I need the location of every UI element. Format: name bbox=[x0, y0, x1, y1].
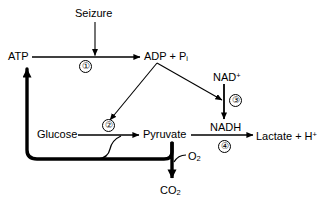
node-label-lactate: Lactate + H+ bbox=[256, 131, 317, 142]
node-label-nadh: NADH bbox=[210, 122, 241, 133]
node-label-nad-plus: NAD+ bbox=[213, 72, 241, 83]
node-label-o2-sub: 2 bbox=[197, 154, 201, 163]
node-label-glucose: Glucose bbox=[37, 129, 77, 140]
node-label-co2-text: CO bbox=[160, 184, 177, 196]
node-label-pyruvate: Pyruvate bbox=[143, 129, 186, 140]
edge-adp-to-step2 bbox=[110, 63, 157, 120]
node-label-seizure: Seizure bbox=[75, 8, 112, 19]
step-marker-1: ① bbox=[79, 60, 92, 73]
node-label-lactate-text: Lactate + H bbox=[256, 130, 313, 142]
node-label-lactate-sup: + bbox=[313, 130, 317, 139]
node-label-nad-plus-sup: + bbox=[236, 71, 240, 80]
edge-recycle-to-atp bbox=[27, 69, 172, 159]
metabolic-pathway-diagram: Seizure ATP ADP + Pi NAD+ Glucose Pyruva… bbox=[0, 0, 334, 210]
node-label-adp-pi-text: ADP + P bbox=[144, 50, 186, 62]
diagram-canvas bbox=[0, 0, 334, 210]
node-label-adp-pi: ADP + Pi bbox=[144, 51, 188, 63]
node-label-co2: CO2 bbox=[160, 185, 181, 197]
node-label-nad-plus-text: NAD bbox=[213, 71, 236, 83]
step-marker-4: ④ bbox=[218, 140, 231, 153]
node-label-co2-sub: 2 bbox=[177, 188, 181, 197]
node-label-adp-pi-sub: i bbox=[186, 54, 188, 63]
node-label-o2: O2 bbox=[188, 151, 201, 163]
node-label-o2-text: O bbox=[188, 150, 197, 162]
step-marker-3: ③ bbox=[229, 94, 242, 107]
edge-o2-into-co2-arrow bbox=[174, 155, 186, 162]
edge-branch-to-glycolysis bbox=[98, 136, 121, 159]
node-label-atp: ATP bbox=[8, 51, 29, 62]
step-marker-2: ② bbox=[102, 119, 115, 132]
